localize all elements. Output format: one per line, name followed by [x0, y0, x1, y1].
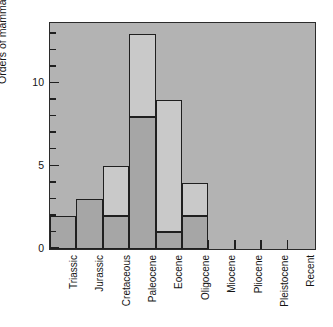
- x-axis-label-pliocene: Pliocene: [253, 255, 264, 293]
- bar-jurassic: [76, 199, 102, 249]
- y-axis-tick: [50, 198, 56, 200]
- bar-segment-lower: [182, 216, 208, 249]
- y-axis-tick: [50, 115, 56, 117]
- y-axis-tick: [50, 49, 56, 51]
- x-axis-tick: [181, 240, 183, 249]
- x-axis-label-eocene: Eocene: [173, 255, 184, 289]
- x-axis-label-triassic: Triassic: [68, 255, 79, 289]
- y-axis-tick: [50, 65, 56, 67]
- bar-cretaceous: [103, 166, 129, 249]
- bar-paleocene: [129, 34, 155, 249]
- bar-oligocene: [182, 183, 208, 249]
- x-axis-tick: [76, 240, 78, 249]
- y-axis-tick: [50, 82, 59, 84]
- y-axis-tick: [50, 214, 56, 216]
- x-axis-tick: [287, 240, 289, 249]
- bar-segment-lower: [103, 216, 129, 249]
- y-axis-tick: [50, 181, 56, 183]
- x-axis-label-cretaceous: Cretaceous: [121, 255, 132, 306]
- x-axis-label-jurassic: Jurassic: [94, 255, 105, 292]
- y-axis-tick: [50, 231, 56, 233]
- bar-segment-upper: [103, 166, 129, 216]
- y-axis-tick-label: 5: [18, 159, 44, 171]
- y-axis-tick-label: 10: [18, 76, 44, 88]
- bar-eocene: [156, 100, 182, 249]
- y-axis-tick: [50, 98, 56, 100]
- y-axis-tick-label: 0: [18, 242, 44, 254]
- bar-segment-lower: [129, 117, 155, 249]
- bar-triassic: [50, 216, 76, 249]
- bar-segment-upper: [156, 100, 182, 232]
- chart-figure: Orders of mammals 0510 TriassicJurassicC…: [0, 0, 333, 327]
- y-axis-tick: [50, 32, 56, 34]
- bar-segment-upper: [129, 34, 155, 117]
- x-axis-label-miocene: Miocene: [226, 255, 237, 293]
- x-axis-label-oligocene: Oligocene: [200, 255, 211, 300]
- y-axis-tick: [50, 165, 59, 167]
- x-axis-tick: [155, 240, 157, 249]
- bar-segment-lower: [76, 199, 102, 249]
- plot-inner: [50, 23, 315, 249]
- y-axis-tick: [50, 247, 59, 249]
- x-axis-label-paleocene: Paleocene: [147, 255, 158, 302]
- y-axis-title: Orders of mammals: [0, 0, 8, 84]
- bar-segment-lower: [156, 232, 182, 249]
- x-axis-tick: [260, 240, 262, 249]
- bar-segment-lower: [50, 216, 76, 249]
- y-axis-tick: [50, 148, 56, 150]
- y-axis-tick: [50, 131, 56, 133]
- plot-area: [49, 22, 316, 250]
- x-axis-tick: [102, 240, 104, 249]
- x-axis-tick: [128, 240, 130, 249]
- x-axis-label-recent: Recent: [305, 255, 316, 287]
- bar-segment-upper: [182, 183, 208, 216]
- x-axis-tick: [234, 240, 236, 249]
- x-axis-label-pleistocene: Pleistocene: [279, 255, 290, 307]
- x-axis-tick: [208, 240, 210, 249]
